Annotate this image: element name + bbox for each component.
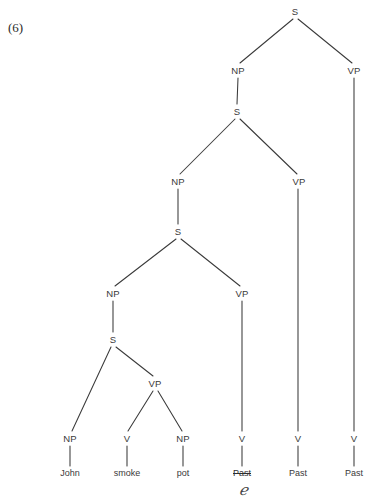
tree-node-np: NP	[231, 65, 245, 76]
tree-terminal-word: Past	[233, 468, 251, 478]
tree-node-s: S	[110, 334, 117, 345]
tree-terminal-word: pot	[177, 468, 190, 478]
tree-node-np: NP	[176, 433, 190, 444]
tree-edge	[158, 391, 182, 431]
tree-node-v: V	[239, 433, 246, 444]
tree-terminal-word: smoke	[114, 468, 141, 478]
tree-branches	[0, 0, 366, 501]
tree-node-v: V	[124, 433, 131, 444]
tree-edge	[72, 347, 111, 431]
tree-node-vp: VP	[235, 288, 248, 299]
tree-node-v: V	[295, 433, 302, 444]
tree-node-v: V	[351, 433, 358, 444]
tree-node-vp: VP	[347, 65, 360, 76]
tree-node-np: NP	[171, 176, 185, 187]
tree-terminal-word: Past	[345, 468, 363, 478]
tree-node-vp: VP	[148, 378, 161, 389]
tree-edge	[240, 119, 297, 174]
tree-terminal-word: John	[60, 468, 80, 478]
tree-node-s: S	[234, 106, 241, 117]
tree-edge	[116, 347, 153, 376]
tree-edge	[237, 78, 238, 104]
handwritten-correction: ℯ	[239, 481, 248, 499]
figure-canvas: (6) SNPVPSNPVPSNPVPSVPNPVNPVVV Johnsmoke…	[0, 0, 366, 501]
tree-node-s: S	[175, 226, 182, 237]
tree-node-vp: VP	[292, 176, 305, 187]
tree-edge	[128, 391, 153, 431]
tree-node-np: NP	[63, 433, 77, 444]
tree-edge	[181, 239, 240, 286]
tree-edge	[298, 19, 352, 63]
tree-node-s: S	[292, 6, 299, 17]
tree-edge	[115, 239, 176, 286]
tree-node-np: NP	[106, 288, 120, 299]
tree-edge	[180, 119, 235, 174]
tree-terminal-word: Past	[289, 468, 307, 478]
tree-edge	[240, 19, 293, 63]
